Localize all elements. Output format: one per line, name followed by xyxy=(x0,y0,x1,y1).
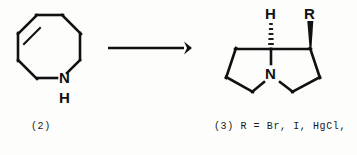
solid-wedge-bond xyxy=(307,21,313,49)
product-r-group-label: R xyxy=(304,6,315,21)
hashed-wedge-bond xyxy=(268,24,274,44)
product-nitrogen-label: N xyxy=(265,66,276,81)
product-bridgehead-hydrogen-label: H xyxy=(265,6,276,21)
reaction-scheme: N H (2) xyxy=(0,0,357,155)
product-number-and-r-definition: (3) R = Br, I, HgCl, xyxy=(214,121,346,132)
